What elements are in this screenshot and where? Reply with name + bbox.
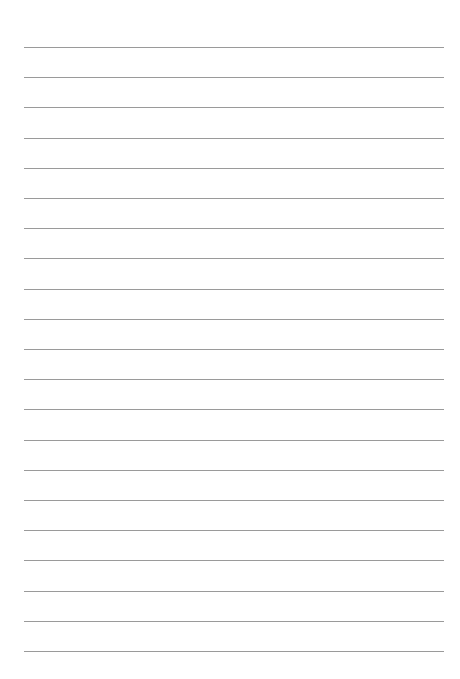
- ruled-line: [24, 168, 444, 169]
- ruled-line: [24, 651, 444, 652]
- ruled-line: [24, 319, 444, 320]
- ruled-line: [24, 470, 444, 471]
- ruled-line: [24, 47, 444, 48]
- ruled-line: [24, 107, 444, 108]
- ruled-line: [24, 530, 444, 531]
- ruled-line: [24, 77, 444, 78]
- ruled-line: [24, 138, 444, 139]
- ruled-line: [24, 409, 444, 410]
- ruled-line: [24, 198, 444, 199]
- ruled-line: [24, 379, 444, 380]
- ruled-line: [24, 560, 444, 561]
- ruled-line: [24, 591, 444, 592]
- ruled-line: [24, 621, 444, 622]
- ruled-line: [24, 228, 444, 229]
- ruled-line: [24, 349, 444, 350]
- ruled-line: [24, 258, 444, 259]
- ruled-line: [24, 289, 444, 290]
- lined-paper-page: [0, 0, 460, 679]
- ruled-line: [24, 440, 444, 441]
- ruled-line: [24, 500, 444, 501]
